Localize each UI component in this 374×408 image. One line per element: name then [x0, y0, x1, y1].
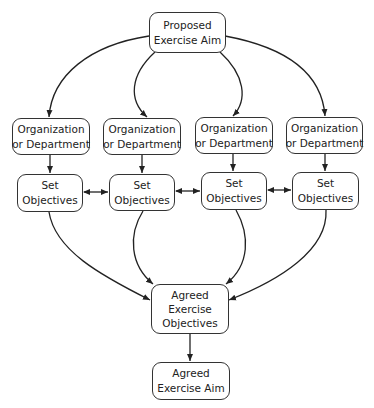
node-text-line: Exercise Aim: [157, 381, 224, 396]
node-set-objectives-1: Set Objectives: [17, 174, 83, 212]
node-text-line: Organization: [108, 122, 175, 137]
node-text-line: Objectives: [206, 191, 261, 206]
node-organization-4: Organization or Department: [286, 117, 363, 154]
node-text-line: Objectives: [298, 191, 353, 206]
node-text-line: Objectives: [162, 316, 217, 330]
node-text-line: or Department: [103, 137, 181, 152]
node-organization-2: Organization or Department: [103, 118, 181, 155]
node-organization-1: Organization or Department: [12, 118, 90, 155]
node-text-line: Agreed: [171, 288, 209, 302]
node-text-line: Set: [41, 178, 58, 193]
node-text-line: Agreed: [172, 366, 210, 381]
node-text-line: or Department: [286, 136, 364, 151]
node-text-line: Exercise: [168, 302, 212, 316]
node-text-line: Set: [317, 176, 334, 191]
node-set-objectives-4: Set Objectives: [292, 172, 359, 210]
edge-set-4-to-agreed: [229, 210, 326, 300]
node-text-line: Organization: [200, 121, 267, 136]
node-proposed-exercise-aim: Proposed Exercise Aim: [149, 12, 226, 53]
edge-set-3-to-agreed: [226, 210, 245, 284]
node-text-line: Proposed: [163, 18, 211, 33]
edge-proposed-to-org-2: [134, 52, 155, 117]
node-organization-3: Organization or Department: [195, 117, 273, 154]
node-text-line: Organization: [291, 121, 358, 136]
node-set-objectives-2: Set Objectives: [109, 174, 175, 211]
node-agreed-exercise-objectives: Agreed Exercise Objectives: [151, 284, 229, 334]
node-text-line: Set: [133, 178, 150, 193]
node-text-line: or Department: [195, 136, 273, 151]
node-set-objectives-3: Set Objectives: [201, 172, 267, 210]
edge-set-2-to-agreed: [133, 211, 153, 284]
node-agreed-exercise-aim: Agreed Exercise Aim: [152, 362, 230, 400]
node-text-line: Organization: [17, 122, 84, 137]
edge-proposed-to-org-3: [220, 52, 242, 116]
node-text-line: or Department: [12, 137, 90, 152]
node-text-line: Objectives: [114, 193, 169, 208]
node-text-line: Exercise Aim: [154, 33, 221, 48]
edge-proposed-to-org-1: [49, 36, 149, 117]
node-text-line: Set: [225, 176, 242, 191]
node-text-line: Objectives: [22, 193, 77, 208]
